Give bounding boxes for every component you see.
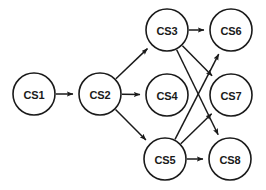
node-cs8[interactable]: CS8	[209, 138, 251, 180]
node-label-cs7: CS7	[220, 90, 241, 102]
node-label-cs1: CS1	[23, 89, 44, 101]
edge-cs2-to-cs5	[116, 110, 146, 140]
node-cs1[interactable]: CS1	[13, 73, 55, 115]
node-cs4[interactable]: CS4	[146, 74, 188, 116]
node-label-cs6: CS6	[220, 25, 241, 37]
diagram-canvas: CS1CS2CS3CS4CS5CS6CS7CS8	[0, 0, 266, 190]
node-label-cs3: CS3	[156, 25, 177, 37]
node-cs5[interactable]: CS5	[144, 138, 186, 180]
node-label-cs4: CS4	[156, 90, 178, 102]
node-cs3[interactable]: CS3	[146, 9, 188, 51]
edge-cs2-to-cs3	[116, 49, 148, 79]
node-label-cs5: CS5	[154, 154, 175, 166]
node-label-cs2: CS2	[89, 89, 110, 101]
node-cs6[interactable]: CS6	[210, 9, 252, 51]
node-label-cs8: CS8	[219, 154, 240, 166]
graph-svg: CS1CS2CS3CS4CS5CS6CS7CS8	[0, 0, 266, 190]
node-cs7[interactable]: CS7	[210, 74, 252, 116]
node-cs2[interactable]: CS2	[79, 73, 121, 115]
